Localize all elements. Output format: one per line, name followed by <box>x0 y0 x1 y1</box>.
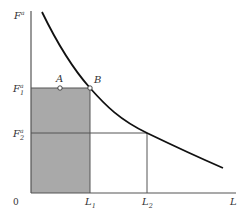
point-a <box>58 86 62 90</box>
l1-label: L1 <box>84 196 96 210</box>
point-b <box>88 86 92 90</box>
f2-label: Fa2 <box>12 127 24 142</box>
x-axis-label: L <box>229 196 237 207</box>
point-b-label: B <box>93 74 101 85</box>
f1-label: Fa1 <box>12 82 24 97</box>
origin-label: 0 <box>13 197 19 207</box>
y-axis-label: Fa <box>13 9 25 21</box>
shaded-area <box>31 88 90 193</box>
point-a-label: A <box>55 73 63 84</box>
diagram: A B Fa Fa1 Fa2 0 L1 L2 L <box>0 0 248 218</box>
l2-label: L2 <box>141 196 153 210</box>
